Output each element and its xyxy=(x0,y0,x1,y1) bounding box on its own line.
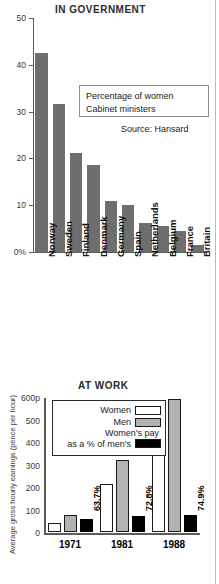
chart-title-in-government: IN GOVERNMENT xyxy=(55,4,146,15)
bar-men xyxy=(116,460,129,532)
year-label: 1981 xyxy=(96,539,148,550)
y-tick-label: 10 xyxy=(0,200,26,210)
y-tick xyxy=(29,252,33,253)
figure-canvas: IN GOVERNMENT 0%1020304050 NorwaySwedenF… xyxy=(0,0,219,584)
legend: Women Men Women's pay as a % of men's xyxy=(52,400,166,456)
y-tick-label: 300 xyxy=(16,461,40,471)
chart-in-government: IN GOVERNMENT 0%1020304050 NorwaySwedenF… xyxy=(0,0,219,370)
legend-label-womens-pay-line1: Women's pay xyxy=(105,428,159,438)
annotation-box: Percentage of women Cabinet ministers xyxy=(79,85,209,117)
legend-item-women: Women xyxy=(57,404,161,416)
category-label: Norway xyxy=(46,223,57,257)
y-tick-label: 50 xyxy=(0,13,26,23)
pct-value-label: 63.7% xyxy=(92,485,102,511)
legend-swatch-men xyxy=(135,418,161,427)
bar-womens-pay-pct xyxy=(80,519,93,533)
legend-item-men: Men xyxy=(57,416,161,428)
y-tick-label: 600p xyxy=(16,393,40,403)
legend-item-womens-pay-pct: Women's pay as a % of men's xyxy=(57,428,161,452)
y-tick-label: 200 xyxy=(16,483,40,493)
category-label: Finland xyxy=(80,223,91,257)
category-label: France xyxy=(184,226,195,257)
category-label: Britain xyxy=(201,227,212,257)
category-label: Denmark xyxy=(98,216,109,257)
legend-label-men: Men xyxy=(113,417,131,427)
x-axis-line xyxy=(44,533,200,535)
bar-womens-pay-pct xyxy=(184,515,197,532)
y-tick-label: 500 xyxy=(16,416,40,426)
category-label: Belgium xyxy=(167,220,178,257)
source-label: Source: Hansard xyxy=(121,124,189,134)
y-tick-label: 20 xyxy=(0,153,26,163)
y-tick-label: 40 xyxy=(0,60,26,70)
bar-men xyxy=(64,515,77,532)
y-tick-label: 30 xyxy=(0,107,26,117)
bar-men xyxy=(168,399,181,532)
chart-title-at-work: AT WORK xyxy=(78,380,129,391)
year-label: 1971 xyxy=(44,539,96,550)
y-tick-label: 0 xyxy=(16,528,40,538)
chart-at-work: AT WORK Average gross hourly earnings (p… xyxy=(0,378,219,584)
legend-swatch-womens-pay-pct xyxy=(135,439,161,448)
pct-value-label: 72.8% xyxy=(144,485,154,511)
category-label: Sweden xyxy=(63,221,74,257)
legend-swatch-women xyxy=(135,406,161,415)
y-tick-label: 400 xyxy=(16,438,40,448)
y-tick-label: 100 xyxy=(16,506,40,516)
category-label: Spain xyxy=(132,231,143,257)
year-label: 1988 xyxy=(148,539,200,550)
annotation-line-2: Cabinet ministers xyxy=(86,103,202,116)
category-label: Netherlands xyxy=(149,202,160,257)
legend-label-womens-pay-line2: as a % of men's xyxy=(67,439,131,449)
legend-label-women: Women xyxy=(100,405,131,415)
bar-womens-pay-pct xyxy=(132,516,145,532)
annotation-line-1: Percentage of women xyxy=(86,90,202,103)
bar-women xyxy=(48,523,61,532)
category-label: Germany xyxy=(115,216,126,257)
y-tick-label: 0% xyxy=(0,247,26,257)
pct-value-label: 74.9% xyxy=(196,485,206,511)
